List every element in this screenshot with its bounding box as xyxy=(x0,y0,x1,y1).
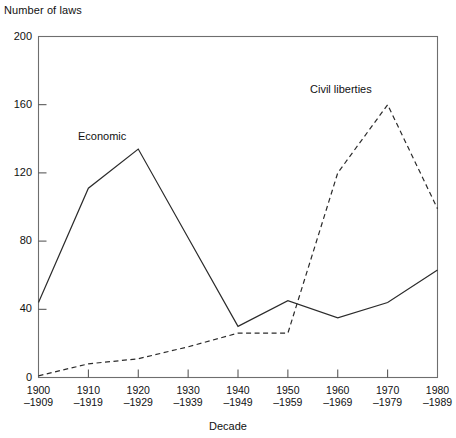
tick-marks xyxy=(39,105,388,378)
y-tick-label: 160 xyxy=(0,99,32,110)
x-tick-label: 1980–1989 xyxy=(408,384,456,408)
series-annotation-economic: Economic xyxy=(78,130,126,142)
y-tick-label: 0 xyxy=(0,372,32,383)
series-annotation-civil-liberties: Civil liberties xyxy=(310,83,372,95)
y-tick-label: 200 xyxy=(0,31,32,42)
x-tick-label-start: 1980 xyxy=(408,384,456,396)
y-tick-label: 80 xyxy=(0,235,32,246)
y-tick-label: 120 xyxy=(0,167,32,178)
y-tick-label: 40 xyxy=(0,303,32,314)
line-chart: Number of laws 04080120160200 1900–19091… xyxy=(0,0,456,438)
x-axis-title: Decade xyxy=(0,420,456,432)
series-line-economic xyxy=(39,149,438,326)
series-line-civil-liberties xyxy=(39,105,438,376)
plot-canvas xyxy=(0,0,456,438)
data-series xyxy=(39,105,438,376)
x-tick-label-end: –1989 xyxy=(408,396,456,408)
